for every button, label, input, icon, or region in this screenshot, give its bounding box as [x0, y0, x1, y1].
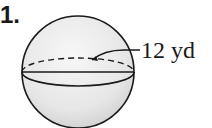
sphere-diagram: 12 yd	[0, 0, 212, 128]
radius-label: 12 yd	[141, 37, 195, 63]
